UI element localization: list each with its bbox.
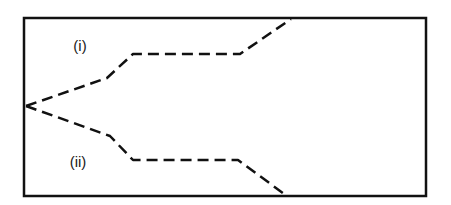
label-path-i: (i) xyxy=(73,38,86,53)
label-path-ii: (ii) xyxy=(70,154,87,169)
dashed-path-ii xyxy=(26,106,287,196)
diagram: (i) (ii) xyxy=(0,0,451,205)
dashed-path-i xyxy=(26,19,291,106)
